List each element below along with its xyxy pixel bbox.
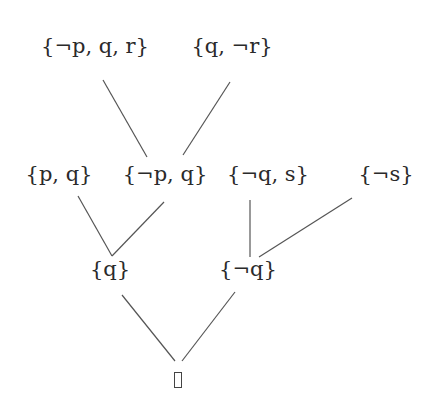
edge-c6-c8 [259,198,352,257]
edge-c8-c9 [182,292,235,361]
clause-not-q-s: {¬q, s} [227,164,309,185]
edge-c7-c9 [122,295,175,361]
edges-layer [0,0,442,420]
edge-c1-c4 [103,80,147,157]
clause-not-s: {¬s} [358,164,413,185]
clause-not-p-q: {¬p, q} [123,164,208,185]
resolution-diagram: {¬p, q, r} {q, ¬r} {p, q} {¬p, q} {¬q, s… [0,0,442,420]
clause-not-q: {¬q} [219,259,277,280]
edge-c3-c7 [78,196,112,256]
clause-q-not-r: {q, ¬r} [191,36,272,57]
empty-clause-box-icon [174,372,182,388]
clause-q: {q} [90,259,130,280]
clause-p-q: {p, q} [26,164,93,185]
edge-c2-c4 [183,82,230,155]
clause-not-p-q-r: {¬p, q, r} [41,36,149,57]
edge-c4-c7 [112,202,164,256]
